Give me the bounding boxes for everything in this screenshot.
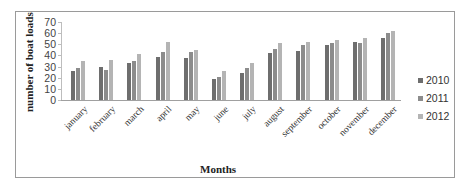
plot-area: [62, 22, 400, 100]
bar-2011-march: [132, 61, 136, 100]
bar-2010-june: [212, 79, 216, 100]
bar-2010-august: [268, 53, 272, 100]
bar-2010-september: [296, 51, 300, 100]
y-tick-label: 10: [36, 84, 56, 94]
bar-2011-december: [386, 33, 390, 100]
legend-item-2011: 2011: [418, 89, 449, 107]
bar-2011-january: [76, 68, 80, 100]
bar-2012-august: [278, 43, 282, 100]
bar-group-december: [372, 22, 400, 100]
y-tick-label: 40: [36, 50, 56, 60]
bar-2011-april: [161, 52, 165, 100]
bar-2010-july: [240, 73, 244, 100]
bar-2010-april: [156, 57, 160, 100]
bar-2010-december: [381, 38, 385, 100]
bar-2012-april: [166, 42, 170, 100]
bar-group-may: [175, 22, 203, 100]
bar-2012-february: [109, 60, 113, 100]
y-tick-mark: [58, 33, 61, 34]
bar-group-january: [62, 22, 90, 100]
legend-swatch-icon: [418, 114, 423, 119]
bar-2010-january: [71, 71, 75, 100]
bar-group-october: [316, 22, 344, 100]
bar-2011-september: [301, 45, 305, 100]
bar-group-september: [287, 22, 315, 100]
y-tick-label: 60: [36, 28, 56, 38]
bar-2012-march: [137, 54, 141, 100]
x-axis-line: [61, 100, 401, 101]
bar-2012-september: [306, 42, 310, 100]
bar-2011-october: [330, 43, 334, 100]
y-tick-label: 50: [36, 39, 56, 49]
y-tick-mark: [58, 89, 61, 90]
bar-2012-december: [391, 31, 395, 100]
y-axis-title: number of boat loads: [23, 12, 35, 112]
y-tick-mark: [58, 100, 61, 101]
bar-2010-november: [353, 42, 357, 100]
bar-2010-march: [127, 63, 131, 100]
legend-swatch-icon: [418, 78, 423, 83]
y-tick-mark: [58, 55, 61, 56]
bar-2012-may: [194, 50, 198, 100]
y-tick-mark: [58, 67, 61, 68]
y-tick-label: 0: [36, 95, 56, 105]
bar-group-february: [90, 22, 118, 100]
legend-item-2012: 2012: [418, 107, 449, 125]
legend: 201020112012: [418, 71, 449, 125]
bar-group-march: [118, 22, 146, 100]
y-tick-mark: [58, 78, 61, 79]
y-axis-ticks: 010203040506070: [38, 0, 56, 192]
legend-label: 2012: [426, 110, 449, 122]
bar-2011-august: [273, 49, 277, 100]
y-tick-label: 20: [36, 73, 56, 83]
legend-label: 2011: [426, 92, 449, 104]
y-tick-label: 70: [36, 17, 56, 27]
y-tick-label: 30: [36, 62, 56, 72]
legend-item-2010: 2010: [418, 71, 449, 89]
y-tick-mark: [58, 44, 61, 45]
bar-2012-july: [250, 63, 254, 100]
bar-2011-june: [217, 77, 221, 100]
bar-2010-may: [184, 58, 188, 100]
bar-group-april: [147, 22, 175, 100]
bar-2012-june: [222, 71, 226, 100]
bar-group-june: [203, 22, 231, 100]
bar-2011-november: [358, 43, 362, 100]
bar-2010-february: [99, 67, 103, 100]
bar-group-november: [344, 22, 372, 100]
y-tick-mark: [58, 22, 61, 23]
bar-2012-november: [363, 38, 367, 100]
x-axis-title: Months: [200, 163, 236, 175]
legend-swatch-icon: [418, 96, 423, 101]
bar-2011-february: [104, 70, 108, 100]
bar-2011-may: [189, 52, 193, 100]
bar-group-august: [259, 22, 287, 100]
bar-2011-july: [245, 68, 249, 100]
legend-label: 2010: [426, 74, 449, 86]
bar-2010-october: [325, 45, 329, 100]
bar-group-july: [231, 22, 259, 100]
bar-2012-january: [81, 61, 85, 100]
bar-2012-october: [335, 40, 339, 100]
